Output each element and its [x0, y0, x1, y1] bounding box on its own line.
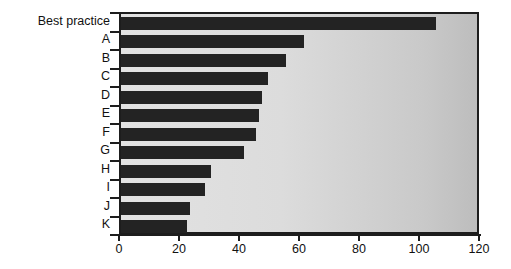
x-axis-tick	[238, 234, 240, 241]
y-axis-label: G	[0, 144, 110, 157]
x-axis-tick	[118, 234, 120, 241]
bar	[121, 165, 211, 178]
bar	[121, 202, 190, 215]
plot-area	[119, 12, 479, 234]
y-axis-label: B	[0, 52, 110, 65]
bar	[121, 54, 286, 67]
bar	[121, 220, 187, 233]
bar	[121, 128, 256, 141]
x-axis-tick	[418, 234, 420, 241]
x-axis-tick-label: 60	[279, 243, 319, 256]
y-axis-label: Best practice	[0, 15, 110, 28]
x-axis-tick-label: 20	[159, 243, 199, 256]
x-axis-tick-label: 80	[339, 243, 379, 256]
bars-layer	[121, 14, 477, 232]
bar	[121, 91, 262, 104]
bar	[121, 146, 244, 159]
bar	[121, 109, 259, 122]
x-axis-tick-label: 100	[399, 243, 439, 256]
y-axis-label: F	[0, 126, 110, 139]
x-axis-tick	[298, 234, 300, 241]
x-axis-tick	[178, 234, 180, 241]
y-axis-label: I	[0, 181, 110, 194]
x-axis-tick	[358, 234, 360, 241]
y-axis-label: H	[0, 163, 110, 176]
x-axis-line	[112, 234, 481, 236]
y-axis-label: D	[0, 89, 110, 102]
bar	[121, 35, 304, 48]
y-axis-label: A	[0, 33, 110, 46]
y-axis-labels: Best practiceABCDEFGHIJK	[0, 12, 110, 234]
bar	[121, 183, 205, 196]
x-axis-tick	[478, 234, 480, 241]
bar	[121, 72, 268, 85]
x-axis-tick-label: 40	[219, 243, 259, 256]
y-axis-label: C	[0, 70, 110, 83]
x-axis-tick-label: 0	[99, 243, 139, 256]
x-axis-tick-label: 120	[459, 243, 499, 256]
y-axis-label: E	[0, 107, 110, 120]
y-axis-label: K	[0, 218, 110, 231]
y-axis-label: J	[0, 200, 110, 213]
bar-chart: Best practiceABCDEFGHIJK 020406080100120	[0, 0, 511, 269]
bar	[121, 17, 436, 30]
